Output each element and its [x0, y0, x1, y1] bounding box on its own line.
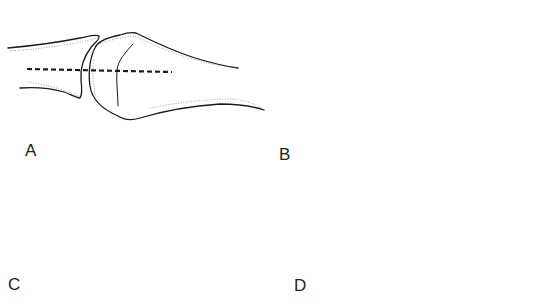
joint-alignment-figure	[0, 0, 544, 301]
panel-a-metacarpal	[89, 33, 264, 120]
panel-label-b: B	[279, 146, 290, 163]
panel-a-phalanx	[8, 35, 99, 98]
panel-a-axis-line	[27, 69, 172, 72]
panel-a	[8, 33, 264, 120]
panel-label-a: A	[25, 142, 36, 159]
panel-label-c: C	[8, 276, 20, 293]
panel-label-d: D	[294, 277, 306, 294]
